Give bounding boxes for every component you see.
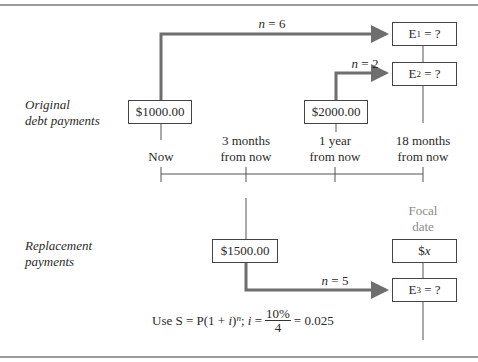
timeline <box>161 167 423 182</box>
label-line: Focal <box>409 203 438 219</box>
n2-label: n = 2 <box>352 56 379 72</box>
label-line: from now <box>396 149 451 165</box>
timeline-label-18-months: 18 months from now <box>396 133 451 165</box>
arrow-n5 <box>246 263 386 290</box>
label-line: payments <box>25 254 92 270</box>
label-line: 18 months <box>396 133 451 149</box>
equals: = <box>251 313 262 329</box>
box-value: $1000.00 <box>136 104 185 120</box>
label-line: 3 months <box>221 133 272 149</box>
label-line: from now <box>221 149 272 165</box>
denominator: 4 <box>275 321 282 334</box>
e-rest: = ? <box>421 26 441 42</box>
box-value: $2000.00 <box>312 104 361 120</box>
box-value: $1500.00 <box>221 243 270 259</box>
n-value: = 2 <box>358 56 378 71</box>
e-rest: = ? <box>421 282 441 298</box>
label-line: date <box>409 219 438 235</box>
formula-result: = 0.025 <box>294 313 334 329</box>
x-variable: x <box>425 243 431 259</box>
equivalent-box-e3: E3 = ? <box>392 278 457 302</box>
timeline-label-1-year: 1 year from now <box>310 133 361 165</box>
replacement-payments-label: Replacement payments <box>25 238 92 270</box>
arrow-n2 <box>336 73 386 100</box>
n-value: = 5 <box>328 273 348 288</box>
equivalent-box-e1: E1 = ? <box>392 22 457 46</box>
e-rest: = ? <box>421 66 441 82</box>
compound-interest-formula: Use S = P(1 + i)n; i = 10% 4 = 0.025 <box>152 307 334 334</box>
connectors <box>161 46 423 340</box>
original-debt-label: Original debt payments <box>25 97 100 129</box>
separator: ; <box>241 313 248 329</box>
label-line: Replacement <box>25 238 92 254</box>
label-line: Now <box>148 149 173 165</box>
timeline-label-now: Now <box>148 149 173 165</box>
n-value: = 6 <box>265 16 285 31</box>
n6-label: n = 6 <box>259 16 286 32</box>
numerator: 10% <box>265 307 291 321</box>
e-symbol: E <box>408 66 416 82</box>
e-symbol: E <box>408 26 416 42</box>
timeline-label-3-months: 3 months from now <box>221 133 272 165</box>
equivalent-box-e2: E2 = ? <box>392 62 457 86</box>
n5-label: n = 5 <box>322 273 349 289</box>
payment-box-1000: $1000.00 <box>128 100 192 124</box>
formula-prefix: Use S = P(1 + <box>152 313 228 329</box>
label-line: Original <box>25 97 100 113</box>
payment-box-1500: $1500.00 <box>212 239 278 263</box>
label-line: from now <box>310 149 361 165</box>
label-line: 1 year <box>310 133 361 149</box>
label-line: debt payments <box>25 113 100 129</box>
focal-date-label: Focal date <box>409 203 438 235</box>
payment-box-2000: $2000.00 <box>304 100 368 124</box>
unknown-payment-box-x: $x <box>392 239 457 263</box>
fraction: 10% 4 <box>265 307 291 334</box>
e-symbol: E <box>408 282 416 298</box>
